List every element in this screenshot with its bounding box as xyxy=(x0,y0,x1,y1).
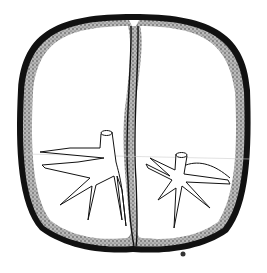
circled-mark-icon xyxy=(181,252,186,257)
right-chamber xyxy=(134,26,236,239)
diagram xyxy=(0,0,267,273)
left-chamber xyxy=(32,26,131,239)
